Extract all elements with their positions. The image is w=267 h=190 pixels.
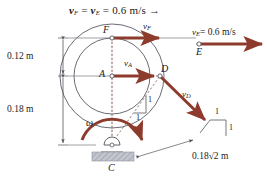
point-marker-D <box>158 74 162 78</box>
distance-value: 0.18 <box>192 151 209 161</box>
vD-sub: D <box>186 92 191 99</box>
distance-dimension-arrow <box>140 140 193 156</box>
ground-hatching <box>92 152 134 161</box>
distance-label-0.18root2: 0.18√2 m <box>192 152 228 162</box>
title-eq1: = <box>81 4 87 16</box>
distance-radical: √2 m <box>209 151 229 161</box>
title-equation: vF = vE = 0.6 m/s → <box>69 5 160 17</box>
velocity-label-vD: vD <box>182 90 191 100</box>
velocity-label-vF: vF <box>143 22 151 32</box>
omega-label: ω <box>86 118 93 128</box>
point-label-D: D <box>161 64 168 74</box>
slope-triangle-outer <box>210 120 226 136</box>
title-v1-sub: F <box>74 9 78 16</box>
point-label-A: A <box>99 69 105 79</box>
mechanics-figure: vF = vE = 0.6 m/s → 0.12 m 0.18 m F A D … <box>0 0 267 190</box>
point-label-F: F <box>103 25 109 35</box>
vF-sub: F <box>147 24 151 31</box>
dimension-label-0.18: 0.18 m <box>7 105 33 115</box>
slope-outer-run-label: 1 <box>229 124 233 132</box>
title-v2-sub: E <box>96 9 100 16</box>
radius-line-CD <box>112 76 160 143</box>
vA-sub: A <box>128 61 132 68</box>
slope-inner-rise-label: 1 <box>148 96 152 104</box>
vE-value: = 0.6 m/s <box>200 27 236 37</box>
point-marker-A <box>110 74 114 78</box>
title-value: 0.6 m/s → <box>112 4 160 16</box>
velocity-label-vE: vE= 0.6 m/s <box>192 28 236 38</box>
slope-inner-run-label: 1 <box>136 114 140 122</box>
title-eq2: = <box>103 4 109 16</box>
dimension-label-0.12: 0.12 m <box>7 52 33 62</box>
slope-outer-rise-label: 1 <box>215 108 219 116</box>
point-label-C: C <box>108 163 115 173</box>
slope-triangle-outer-leg <box>200 120 210 133</box>
point-marker-F <box>110 36 114 40</box>
pin-support-pivot <box>110 143 114 147</box>
velocity-label-vA: vA <box>124 59 132 69</box>
point-label-E: E <box>196 47 202 57</box>
